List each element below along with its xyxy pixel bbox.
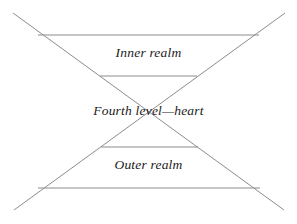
label-fourth-level-heart: Fourth level—heart (0, 103, 297, 119)
label-outer-realm: Outer realm (0, 157, 297, 173)
realms-diagram: Inner realm Fourth level—heart Outer rea… (0, 0, 297, 224)
label-inner-realm: Inner realm (0, 45, 297, 61)
